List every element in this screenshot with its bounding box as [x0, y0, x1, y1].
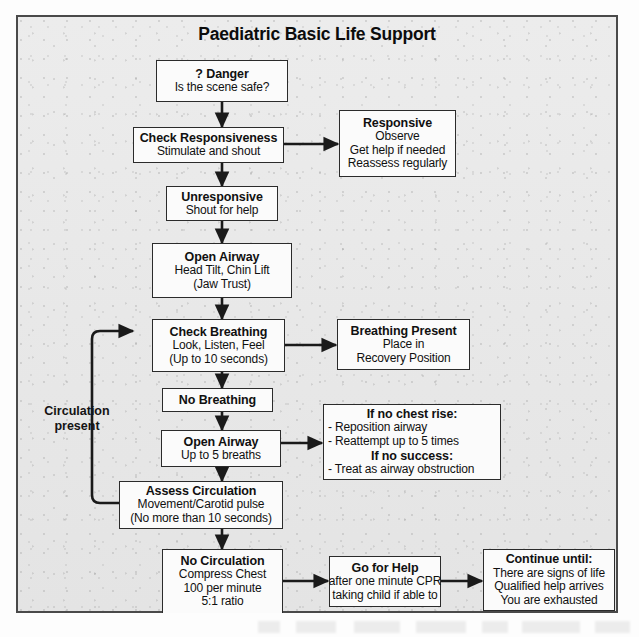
scan-bleed-artifact — [250, 621, 639, 633]
node-open-airway-2-line-1: Up to 5 breaths — [181, 449, 261, 463]
node-open-airway-1-line-1: Head Tilt, Chin Lift — [174, 264, 269, 278]
node-unresponsive-line-1: Shout for help — [186, 204, 259, 218]
loop-label-line-2: present — [22, 419, 132, 434]
node-assess-circulation-title: Assess Circulation — [146, 484, 257, 498]
node-no-circulation-title: No Circulation — [180, 554, 264, 568]
node-danger[interactable]: ? Danger Is the scene safe? — [156, 60, 288, 102]
node-continue-until-title: Continue until: — [506, 552, 593, 566]
node-continue-until-line-2: Qualified help arrives — [494, 580, 603, 594]
loop-label-circulation-present: Circulation present — [22, 404, 132, 434]
node-check-breathing-line-2: (Up to 10 seconds) — [169, 353, 268, 367]
node-no-circulation[interactable]: No Circulation Compress Chest 100 per mi… — [162, 549, 283, 613]
node-unresponsive[interactable]: Unresponsive Shout for help — [166, 186, 278, 221]
node-open-airway-1[interactable]: Open Airway Head Tilt, Chin Lift (Jaw Tr… — [152, 243, 292, 298]
node-no-success-title: If no success: — [371, 449, 453, 463]
node-continue-until-line-1: There are signs of life — [493, 567, 605, 581]
node-continue-until-line-3: You are exhausted — [500, 594, 597, 608]
page-title: Paediatric Basic Life Support — [16, 24, 618, 45]
node-go-for-help-title: Go for Help — [352, 561, 419, 575]
node-unresponsive-title: Unresponsive — [181, 190, 262, 204]
node-open-airway-2-title: Open Airway — [184, 435, 259, 449]
node-no-circulation-line-1: Compress Chest — [179, 568, 266, 582]
node-breathing-present-line-1: Place in — [383, 338, 425, 352]
node-open-airway-1-title: Open Airway — [185, 250, 260, 264]
node-no-breathing-title: No Breathing — [179, 393, 256, 407]
node-breathing-present-title: Breathing Present — [351, 324, 457, 338]
node-responsive-line-1: Observe — [375, 130, 419, 144]
node-breathing-present[interactable]: Breathing Present Place in Recovery Posi… — [337, 319, 470, 370]
flowchart-canvas: Paediatric Basic Life Support — [0, 0, 639, 637]
node-continue-until[interactable]: Continue until: There are signs of life … — [483, 549, 615, 611]
node-check-breathing-line-1: Look, Listen, Feel — [172, 339, 264, 353]
node-assess-circulation-line-1: Movement/Carotid pulse — [138, 498, 265, 512]
node-check-breathing-title: Check Breathing — [170, 325, 268, 339]
node-responsive-line-3: Reassess regularly — [348, 157, 447, 171]
node-breathing-present-line-2: Recovery Position — [356, 352, 450, 366]
node-no-breathing[interactable]: No Breathing — [162, 388, 273, 412]
node-danger-title: ? Danger — [195, 67, 248, 81]
node-go-for-help-line-1: after one minute CPR — [329, 575, 441, 589]
node-no-circulation-line-3: 5:1 ratio — [201, 595, 243, 609]
node-danger-line-1: Is the scene safe? — [175, 81, 270, 95]
node-responsive-line-2: Get help if needed — [350, 144, 445, 158]
chart-frame — [16, 15, 618, 613]
node-assess-circulation[interactable]: Assess Circulation Movement/Carotid puls… — [119, 481, 283, 529]
node-no-chest-rise-title: If no chest rise: — [367, 407, 458, 421]
node-no-chest-rise-line-1: - Reposition airway — [328, 421, 427, 435]
node-responsive-title: Responsive — [363, 116, 432, 130]
loop-label-line-1: Circulation — [22, 404, 132, 419]
node-responsive[interactable]: Responsive Observe Get help if needed Re… — [339, 110, 456, 177]
node-open-airway-1-line-2: (Jaw Trust) — [193, 278, 251, 292]
node-no-chest-rise-line-2: - Reattempt up to 5 times — [328, 435, 459, 449]
node-no-success-line-1: - Treat as airway obstruction — [328, 463, 474, 477]
node-check-responsiveness-title: Check Responsiveness — [140, 131, 278, 145]
node-go-for-help-line-2: taking child if able to — [332, 589, 437, 603]
node-check-breathing[interactable]: Check Breathing Look, Listen, Feel (Up t… — [152, 319, 285, 372]
node-check-responsiveness-line-1: Stimulate and shout — [157, 145, 260, 159]
node-no-chest-rise[interactable]: If no chest rise: - Reposition airway - … — [323, 404, 501, 480]
node-open-airway-2[interactable]: Open Airway Up to 5 breaths — [161, 430, 281, 467]
node-go-for-help[interactable]: Go for Help after one minute CPR taking … — [329, 556, 441, 607]
node-assess-circulation-line-2: (No more than 10 seconds) — [130, 512, 272, 526]
node-no-circulation-line-2: 100 per minute — [184, 582, 262, 596]
node-check-responsiveness[interactable]: Check Responsiveness Stimulate and shout — [133, 127, 284, 163]
